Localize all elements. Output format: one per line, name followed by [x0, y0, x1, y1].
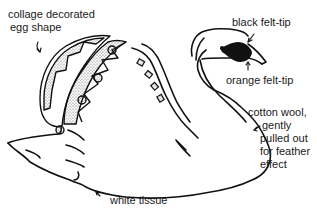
label-line: for feather — [260, 145, 317, 158]
eye-marking — [220, 42, 252, 62]
label-line: pulled out — [260, 132, 317, 145]
label-line: orange felt-tip — [226, 74, 293, 87]
wing-pattern-band — [137, 59, 164, 102]
collage-egg-shape — [40, 35, 126, 134]
label-white-tissue: white tissue — [110, 194, 167, 207]
label-line: gently — [262, 119, 317, 132]
label-line: black felt-tip — [232, 16, 291, 29]
label-line: collage decorated — [8, 8, 95, 21]
label-line: effect — [260, 158, 317, 171]
label-line: white tissue — [110, 194, 167, 207]
label-orange-felt-tip: orange felt-tip — [226, 74, 293, 87]
label-collage-egg: collage decorated egg shape — [8, 8, 95, 34]
label-cotton-wool: cotton wool, gently pulled out for feath… — [248, 106, 317, 171]
label-line: cotton wool, — [248, 106, 317, 119]
label-black-felt-tip: black felt-tip — [232, 16, 291, 29]
label-line: egg shape — [10, 21, 95, 34]
